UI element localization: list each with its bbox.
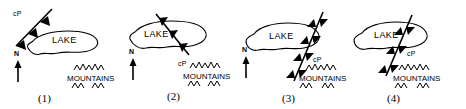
panel-3: LAKE cP N MOUNTAINS (3): [230, 0, 347, 109]
north-label: N: [242, 46, 247, 53]
panel-4-graphic: [345, 0, 462, 109]
mountains-label: MOUNTAINS: [67, 75, 114, 83]
air-mass-label-cp: cP: [178, 60, 187, 67]
mountains-label: MOUNTAINS: [393, 75, 440, 83]
north-arrow: [15, 60, 22, 82]
air-mass-label-cp: cP: [407, 50, 416, 57]
panel-1: LAKE cP N MOUNTAINS (1): [0, 0, 117, 109]
lake-label: LAKE: [374, 31, 399, 40]
mountains-label: MOUNTAINS: [183, 73, 230, 81]
air-mass-label-cp: cP: [313, 56, 322, 63]
panel-number: (3): [282, 93, 295, 104]
mountains-label: MOUNTAINS: [299, 75, 346, 83]
air-mass-label-cp: cP: [13, 10, 22, 17]
panel-2: LAKE cP N MOUNTAINS (2): [115, 0, 232, 109]
panel-number: (2): [167, 91, 180, 102]
lake-label: LAKE: [269, 32, 294, 41]
north-label: N: [14, 50, 19, 57]
panel-number: (4): [387, 93, 400, 104]
lake-label: LAKE: [52, 36, 77, 45]
lake-label: LAKE: [144, 30, 169, 39]
north-label: N: [129, 48, 134, 55]
panel-number: (1): [38, 93, 51, 104]
panel-4: LAKE cP MOUNTAINS (4): [345, 0, 462, 109]
weather-front-sequence-figure: LAKE cP N MOUNTAINS (1): [0, 0, 466, 109]
north-arrow: [130, 58, 137, 80]
north-arrow: [243, 56, 250, 78]
